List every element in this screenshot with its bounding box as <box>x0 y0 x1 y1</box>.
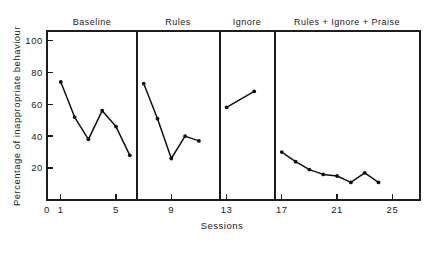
chart-figure: 100 80 60 40 20 0 1 5 9 13 17 21 25 <box>0 0 432 255</box>
chart-svg: 100 80 60 40 20 0 1 5 9 13 17 21 25 <box>0 0 432 255</box>
data-point <box>128 153 132 157</box>
phase-label-rules: Rules <box>165 17 191 27</box>
phase-label-baseline: Baseline <box>73 17 112 27</box>
data-point <box>197 139 201 143</box>
y-axis-tick-labels: 100 80 60 40 20 <box>25 35 43 174</box>
series-baseline <box>59 80 132 157</box>
data-point <box>87 137 91 141</box>
y-tick-label-80: 80 <box>31 67 43 78</box>
y-tick-label-60: 60 <box>31 99 43 110</box>
data-point <box>335 174 339 178</box>
y-axis-title: Percentage of inappropriate behaviour <box>11 26 22 206</box>
series-rules <box>142 82 201 161</box>
phase-label-ignore: Ignore <box>233 17 262 27</box>
x-tick-label-25: 25 <box>387 204 399 215</box>
data-point <box>252 90 256 94</box>
phase-label-rules-ignore-praise: Rules + Ignore + Praise <box>294 17 400 27</box>
data-point <box>280 150 284 154</box>
x-tick-label-13: 13 <box>221 204 233 215</box>
data-point <box>377 181 381 185</box>
x-axis-title: Sessions <box>201 220 244 231</box>
plot-frame <box>47 31 420 200</box>
data-point <box>156 117 160 121</box>
x-tick-label-17: 17 <box>276 204 288 215</box>
data-point <box>59 80 63 84</box>
x-tick-label-9: 9 <box>168 204 174 215</box>
series-rules-ignore-praise <box>280 150 381 184</box>
x-tick-label-5: 5 <box>113 204 119 215</box>
y-tick-label-40: 40 <box>31 131 43 142</box>
data-point <box>349 181 353 185</box>
phase-dividers <box>137 31 275 200</box>
phase-labels: Baseline Rules Ignore Rules + Ignore + P… <box>73 17 400 27</box>
data-point <box>294 160 298 164</box>
data-point <box>142 82 146 86</box>
data-point <box>363 171 367 175</box>
series-line-baseline <box>61 82 130 155</box>
x-axis-tick-labels: 0 1 5 9 13 17 21 25 <box>44 204 398 215</box>
series-line-rules <box>144 84 199 159</box>
x-tick-label-21: 21 <box>331 204 343 215</box>
data-point <box>100 109 104 113</box>
data-point <box>183 134 187 138</box>
data-point <box>73 115 77 119</box>
y-tick-label-100: 100 <box>25 35 43 46</box>
plot-border <box>47 31 420 200</box>
x-tick-label-1: 1 <box>58 204 64 215</box>
series-line-rules-ignore-praise <box>282 152 379 182</box>
x-tick-label-0: 0 <box>44 204 50 215</box>
data-point <box>169 157 173 161</box>
series-line-ignore <box>227 91 255 107</box>
series-ignore <box>225 90 256 110</box>
data-point <box>308 168 312 172</box>
y-axis-ticks <box>47 40 53 168</box>
data-point <box>225 106 229 110</box>
data-point <box>321 173 325 177</box>
data-point <box>114 125 118 129</box>
y-tick-label-20: 20 <box>31 162 43 173</box>
